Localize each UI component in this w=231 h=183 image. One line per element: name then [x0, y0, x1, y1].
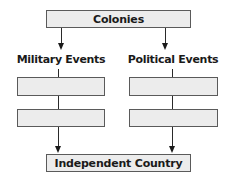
connector-right-label-to-box1: [172, 69, 173, 77]
arrowhead-right-bottom: [169, 146, 175, 153]
arrowhead-left-top: [58, 43, 64, 50]
arrow-line-left-bottom: [58, 127, 59, 147]
connector-right-box1-to-box2: [172, 96, 173, 109]
political-event-box-1: [129, 77, 218, 96]
military-event-box-2: [17, 109, 105, 127]
connector-left-box1-to-box2: [58, 96, 59, 109]
arrow-line-left-top: [61, 28, 62, 44]
arrow-line-right-top: [165, 28, 166, 44]
independent-country-box: Independent Country: [46, 154, 191, 172]
colonies-box: Colonies: [46, 10, 191, 28]
colonies-label: Colonies: [93, 13, 144, 26]
connector-left-label-to-box1: [58, 69, 59, 77]
independent-country-label: Independent Country: [54, 157, 182, 170]
arrow-line-right-bottom: [172, 127, 173, 147]
arrowhead-right-top: [162, 43, 168, 50]
political-event-box-2: [129, 109, 218, 127]
military-event-box-1: [17, 77, 105, 96]
arrowhead-left-bottom: [55, 146, 61, 153]
military-events-label: Military Events: [8, 53, 114, 66]
political-events-label: Political Events: [120, 53, 226, 66]
